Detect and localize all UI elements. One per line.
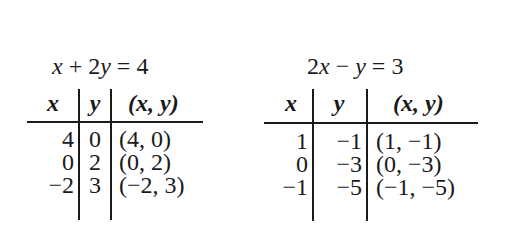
cell-pair: (−1, −5): [376, 175, 455, 199]
cell-y: −5: [316, 175, 362, 199]
header-divider: [264, 122, 478, 124]
cell-pair: (1, −1): [376, 129, 442, 153]
cell-x: −1: [266, 175, 308, 199]
equation-title: 2x − y = 3: [307, 54, 403, 78]
equation-op: −: [330, 53, 356, 79]
column-header-y: y: [318, 91, 360, 115]
column-divider-1: [312, 89, 314, 221]
column-header-x: x: [276, 91, 306, 115]
equation-var-x: x: [319, 53, 330, 79]
equation-rhs: = 3: [366, 53, 404, 79]
column-divider-2: [366, 89, 368, 221]
equation-var-y: y: [355, 53, 366, 79]
cell-x: 0: [266, 152, 308, 176]
table-2x-minus-y-equals-3: 2x − y = 3 x y (x, y) 1 −1 (1, −1) 0 −3 …: [0, 0, 510, 238]
equation-coef: 2: [307, 53, 319, 79]
column-header-pair: (x, y): [393, 91, 444, 115]
cell-pair: (0, −3): [376, 152, 442, 176]
cell-y: −1: [316, 129, 362, 153]
cell-y: −3: [316, 152, 362, 176]
cell-x: 1: [266, 129, 308, 153]
